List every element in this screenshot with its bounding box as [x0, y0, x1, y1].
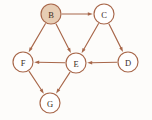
graph-node-f[interactable]: F [13, 52, 33, 72]
graph-edge-c-d [109, 24, 123, 52]
edge-arrowhead [67, 48, 71, 53]
node-layer: BCFEDG [13, 4, 138, 113]
graph-edge-e-f [34, 61, 65, 64]
graph-edge-b-e [56, 24, 71, 53]
graph-edge-d-e [87, 61, 117, 64]
edge-arrowhead [87, 61, 92, 64]
node-label-g: G [47, 99, 53, 109]
edge-line [58, 72, 70, 90]
graph-node-d[interactable]: D [118, 52, 138, 72]
graph-node-e[interactable]: E [66, 53, 86, 73]
edge-arrowhead [29, 47, 33, 52]
edge-line [56, 24, 69, 50]
edge-arrowhead [56, 88, 60, 93]
graph-node-c[interactable]: C [94, 4, 114, 24]
directed-graph-figure: BCFEDG [0, 0, 152, 120]
node-label-b: B [48, 10, 54, 20]
graph-node-b[interactable]: B [41, 4, 61, 24]
node-label-c: C [101, 10, 107, 20]
graph-edge-b-f [29, 24, 46, 53]
graph-canvas: BCFEDG [0, 0, 152, 120]
edge-line [29, 71, 42, 90]
edge-line [31, 24, 46, 49]
edge-line [38, 62, 65, 63]
node-label-f: F [21, 58, 26, 68]
edge-arrowhead [119, 47, 123, 52]
graph-edge-b-c [62, 12, 93, 15]
edge-arrowhead [40, 89, 44, 94]
edge-arrowhead [82, 48, 86, 53]
edge-line [109, 24, 121, 49]
node-label-d: D [125, 58, 131, 68]
edge-line [83, 24, 98, 50]
node-label-e: E [73, 59, 78, 69]
graph-edge-e-g [56, 72, 70, 93]
graph-node-g[interactable]: G [40, 93, 60, 113]
graph-edge-f-g [29, 71, 44, 93]
edge-arrowhead [34, 61, 39, 64]
graph-edge-c-e [82, 24, 99, 54]
edge-arrowhead [88, 12, 93, 15]
